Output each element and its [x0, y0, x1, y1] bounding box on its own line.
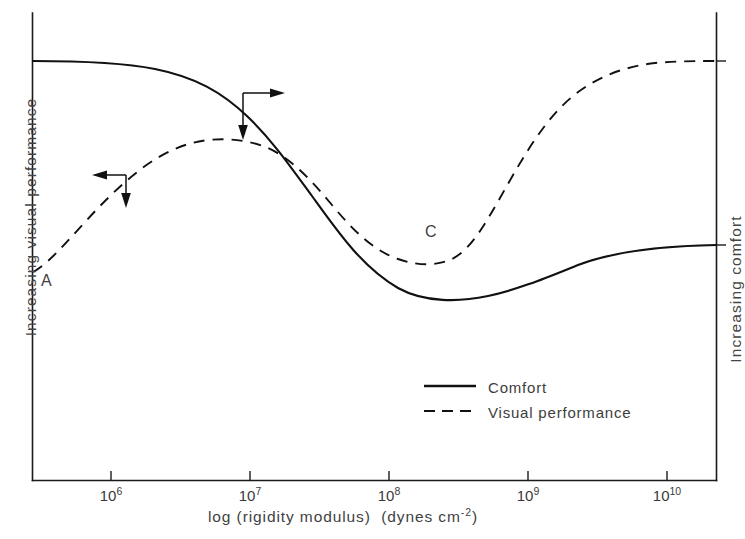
right-axis-endpoint-ticks [717, 61, 727, 245]
tick-exponent: 6 [116, 485, 122, 497]
x-axis-title-units: (dynes cm [381, 508, 461, 525]
tick-exponent: 8 [394, 485, 400, 497]
tick-base: 10 [100, 487, 117, 504]
x-tick-label-0: 106 [88, 485, 134, 504]
legend-swatches [424, 386, 476, 411]
x-axis-title-main: log (rigidity modulus) [208, 508, 371, 525]
x-tick-label-2: 108 [366, 485, 412, 504]
x-axis-title: log (rigidity modulus) (dynes cm-2) [208, 506, 478, 526]
legend-label-visual-performance: Visual performance [488, 404, 631, 421]
tick-base: 10 [653, 487, 670, 504]
left-axis-title: Increasing visual performance [22, 92, 40, 342]
right-axis-title: Increasing comfort [727, 164, 745, 414]
x-axis-title-units-exponent: -2 [461, 506, 472, 518]
tick-exponent: 9 [533, 485, 539, 497]
marker-visual-performance-direction [92, 170, 131, 208]
annotation-label-c: C [425, 223, 437, 241]
x-tick-label-4: 1010 [644, 485, 690, 504]
x-tick-label-1: 107 [227, 485, 273, 504]
tick-base: 10 [517, 487, 534, 504]
x-tick-marks [111, 471, 667, 481]
tick-exponent: 10 [670, 485, 682, 497]
annotation-label-a: A [41, 272, 52, 290]
legend-label-comfort: Comfort [488, 379, 547, 396]
tick-exponent: 7 [255, 485, 261, 497]
x-tick-label-3: 109 [505, 485, 551, 504]
tick-base: 10 [378, 487, 395, 504]
tick-base: 10 [239, 487, 256, 504]
x-axis-title-units-close: ) [472, 508, 478, 525]
series-curve-visual-performance [33, 61, 716, 272]
series-curve-comfort [33, 61, 716, 300]
